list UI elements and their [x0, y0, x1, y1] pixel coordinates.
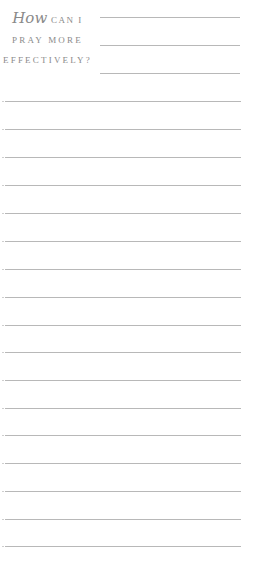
writing-line [5, 269, 241, 270]
line-tick [2, 519, 4, 520]
writing-line [5, 129, 241, 130]
line-tick [2, 101, 4, 102]
writing-line [5, 213, 241, 214]
writing-line [5, 297, 241, 298]
writing-line [5, 519, 241, 520]
heading-line1: CAN I [51, 15, 83, 25]
writing-line [5, 241, 241, 242]
line-tick [2, 297, 4, 298]
line-tick [2, 157, 4, 158]
writing-line [5, 325, 241, 326]
writing-line [5, 352, 241, 353]
line-tick [2, 129, 4, 130]
writing-line [5, 380, 241, 381]
writing-line [5, 157, 241, 158]
heading-line3: EFFECTIVELY? [0, 50, 95, 70]
short-writing-line [100, 17, 240, 18]
line-tick [2, 546, 4, 547]
line-tick [2, 408, 4, 409]
heading-line2: PRAY MORE [0, 30, 95, 50]
writing-line [5, 491, 241, 492]
writing-line [5, 435, 241, 436]
line-tick [2, 185, 4, 186]
line-tick [2, 380, 4, 381]
line-tick [2, 352, 4, 353]
line-tick [2, 213, 4, 214]
heading-how: How [12, 9, 47, 27]
prompt-heading: How CAN I PRAY MORE EFFECTIVELY? [0, 8, 95, 70]
line-tick [2, 491, 4, 492]
line-tick [2, 435, 4, 436]
writing-line [5, 463, 241, 464]
line-tick [2, 325, 4, 326]
line-tick [2, 241, 4, 242]
short-writing-line [100, 73, 240, 74]
writing-line [5, 101, 241, 102]
line-tick [2, 269, 4, 270]
writing-line [5, 185, 241, 186]
writing-line [5, 408, 241, 409]
line-tick [2, 463, 4, 464]
short-writing-line [100, 45, 240, 46]
writing-line [5, 546, 241, 547]
